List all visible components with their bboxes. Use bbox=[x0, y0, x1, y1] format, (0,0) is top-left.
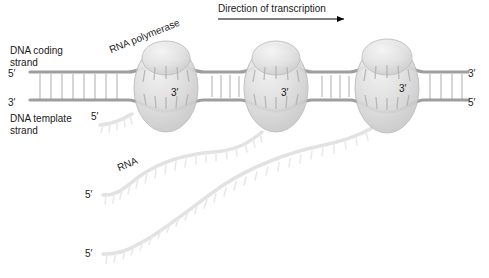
rna-transcript-1 bbox=[100, 114, 132, 133]
prime-marker-template-left: 5′ bbox=[91, 111, 98, 123]
dna-rungs-right bbox=[430, 74, 462, 99]
rna-polymerase-2 bbox=[244, 41, 308, 132]
prime-marker-bubble-1: 3′ bbox=[171, 87, 178, 99]
prime-marker-dna-left-bottom: 3′ bbox=[8, 97, 15, 109]
dna-template-strand-label: DNA template strand bbox=[10, 113, 72, 137]
prime-marker-dna-right-top: 3′ bbox=[468, 68, 475, 80]
prime-marker-dna-left-top: 5′ bbox=[8, 68, 15, 80]
prime-marker-rna-2-start: 5′ bbox=[85, 248, 92, 260]
rna-polymerase-3 bbox=[355, 39, 419, 133]
rna-transcript-group bbox=[100, 114, 372, 263]
dna-coding-strand-label: DNA coding strand bbox=[10, 45, 63, 69]
prime-marker-bubble-2: 3′ bbox=[281, 87, 288, 99]
rna-polymerase-1 bbox=[134, 41, 198, 132]
prime-marker-rna-1-start: 5′ bbox=[85, 189, 92, 201]
prime-marker-dna-right-bottom: 5′ bbox=[468, 97, 475, 109]
diagram-canvas bbox=[0, 0, 489, 278]
dna-rungs-left bbox=[40, 74, 117, 99]
dna-rungs-mid-2 bbox=[322, 75, 349, 98]
dna-rungs-mid-1 bbox=[212, 75, 239, 98]
direction-of-transcription-label: Direction of transcription bbox=[218, 3, 326, 15]
transcription-diagram: DNA coding strand DNA template strand Di… bbox=[0, 0, 489, 278]
prime-marker-bubble-3: 3′ bbox=[399, 83, 406, 95]
